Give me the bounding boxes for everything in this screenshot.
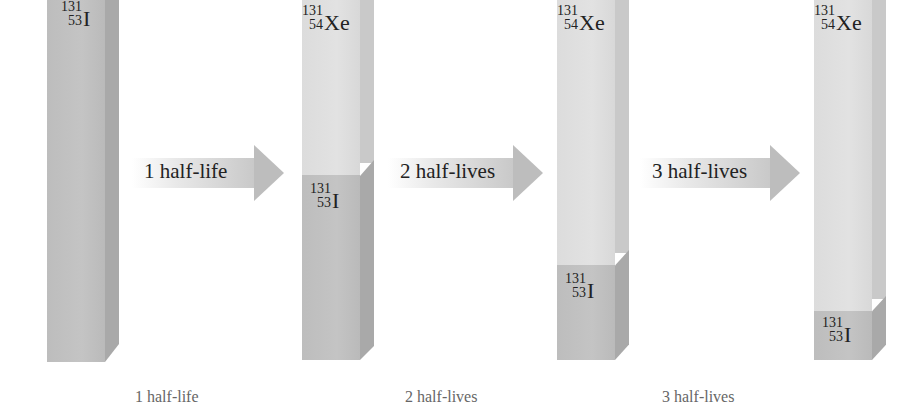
bar-start: 13153I xyxy=(47,0,119,364)
arrow-head-icon xyxy=(254,145,284,201)
arrow-head-icon xyxy=(770,145,800,201)
arrow-1-half-life: 1 half-life xyxy=(132,145,284,201)
bar-side xyxy=(872,0,886,299)
iodine-segment xyxy=(47,0,105,362)
iodine-label: 13153I xyxy=(565,272,594,302)
bar-side xyxy=(615,0,629,253)
bar-1-half-life: 13154Xe 13153I xyxy=(302,0,374,362)
arrow-head-icon xyxy=(513,145,543,201)
arrow-2-half-lives: 2 half-lives xyxy=(388,145,543,201)
bar-3-half-lives: 13154Xe 13153I xyxy=(814,0,886,362)
arrow-label: 3 half-lives xyxy=(652,159,747,184)
xenon-segment xyxy=(814,0,872,311)
xenon-label: 13154Xe xyxy=(557,4,605,34)
bar-2-half-lives: 13154Xe 13153I xyxy=(557,0,629,362)
arrow-label: 1 half-life xyxy=(144,159,227,184)
xenon-segment xyxy=(557,0,615,265)
caption-2: 2 half-lives xyxy=(405,388,477,406)
bar-side xyxy=(105,0,119,362)
caption-1: 1 half-life xyxy=(135,388,199,406)
arrow-3-half-lives: 3 half-lives xyxy=(640,145,800,201)
xenon-label: 13154Xe xyxy=(302,4,350,34)
caption-3: 3 half-lives xyxy=(662,388,734,406)
bar-side xyxy=(360,160,374,360)
iodine-label: 13153I xyxy=(61,0,90,30)
iodine-label: 13153I xyxy=(310,182,339,212)
bar-side xyxy=(872,296,886,360)
iodine-label: 13153I xyxy=(822,316,851,346)
bar-side xyxy=(615,250,629,360)
xenon-label: 13154Xe xyxy=(814,4,862,34)
arrow-label: 2 half-lives xyxy=(400,159,495,184)
bar-side xyxy=(360,0,374,163)
